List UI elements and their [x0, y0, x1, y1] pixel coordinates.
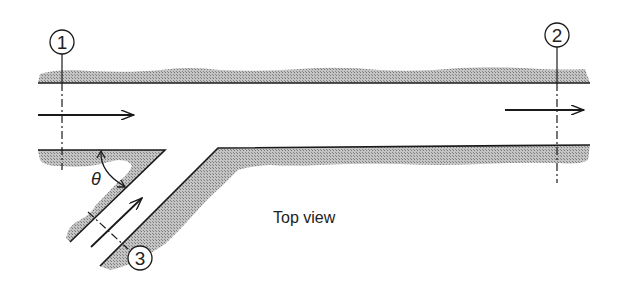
section-3-label: 3	[135, 248, 146, 269]
pipe-junction-diagram: 1 2 3 θ Top view	[0, 0, 622, 286]
right-bottom-wall-shading	[100, 145, 590, 270]
section-1-label: 1	[57, 32, 68, 53]
diagram-canvas: 1 2 3 θ Top view	[0, 0, 622, 286]
view-caption: Top view	[273, 209, 336, 226]
section-2-label: 2	[552, 25, 563, 46]
theta-label: θ	[91, 169, 101, 189]
top-wall-shading	[38, 67, 590, 83]
